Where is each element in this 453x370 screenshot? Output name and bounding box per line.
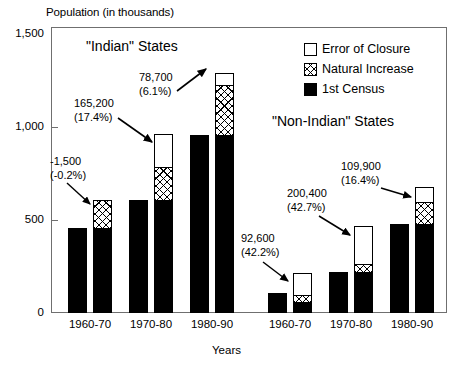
y-tick-mark-1000 <box>51 127 58 128</box>
segment-error-of-closure <box>415 187 434 203</box>
annotation-percent: (17.4%) <box>74 111 114 125</box>
annotation-value: 109,900 <box>341 160 381 174</box>
segment-error-of-closure <box>215 73 234 86</box>
bar-indian-1960-70-components <box>93 200 112 313</box>
hatched-square-icon <box>304 63 317 76</box>
y-tick-1500: 1,500 <box>0 27 44 39</box>
bar-indian-1970-80-census <box>129 200 148 313</box>
annotation-value: 165,200 <box>74 97 114 111</box>
legend-item-natural-increase: Natural Increase <box>304 59 414 79</box>
segment-1st-census <box>415 224 434 313</box>
segment-natural-increase <box>154 167 173 201</box>
annotation-percent: (42.2%) <box>241 246 280 260</box>
segment-natural-increase <box>293 295 312 303</box>
bar-nonindian-1970-80-census <box>329 272 348 313</box>
annotation-value: -1,500 <box>50 155 86 169</box>
bar-nonindian-1980-90-census <box>390 224 409 313</box>
annotation-neg1500: -1,500 (-0.2%) <box>50 155 86 182</box>
segment-1st-census <box>129 200 148 313</box>
legend-item-error-of-closure: Error of Closure <box>304 39 414 59</box>
segment-error-of-closure <box>154 134 173 168</box>
y-tick-mark-500 <box>51 220 58 221</box>
bar-nonindian-1970-80-components <box>354 226 373 313</box>
segment-1st-census <box>190 135 209 313</box>
x-tick-nonindian-1980-90: 1980-90 <box>372 318 452 330</box>
annotation-78700: 78,700 (6.1%) <box>139 71 173 98</box>
segment-1st-census <box>154 200 173 313</box>
x-tick-indian-1980-90: 1980-90 <box>172 318 252 330</box>
legend-label: Error of Closure <box>322 42 410 56</box>
legend-label: Natural Increase <box>322 62 414 76</box>
y-axis-title: Population (in thousands) <box>46 6 174 18</box>
annotation-109900: 109,900 (16.4%) <box>341 160 381 187</box>
bar-indian-1980-90-census <box>190 135 209 313</box>
segment-1st-census <box>93 228 112 313</box>
bar-indian-1970-80-components <box>154 134 173 313</box>
y-tick-1000: 1,000 <box>0 120 44 132</box>
y-tick-500: 500 <box>0 213 44 225</box>
annotation-value: 92,600 <box>241 232 280 246</box>
segment-1st-census <box>390 224 409 313</box>
segment-natural-increase <box>354 264 373 273</box>
population-bar-chart: Population (in thousands) 1,500 1,000 50… <box>0 0 453 370</box>
segment-1st-census <box>293 302 312 313</box>
legend-label: 1st Census <box>322 82 385 96</box>
annotation-percent: (-0.2%) <box>50 169 86 183</box>
segment-1st-census <box>215 135 234 313</box>
bar-indian-1980-90-components <box>215 73 234 313</box>
annotation-percent: (6.1%) <box>139 85 173 99</box>
group-heading-indian: "Indian" States <box>86 38 178 54</box>
segment-natural-increase <box>415 202 434 225</box>
bar-indian-1960-70-census <box>68 228 87 313</box>
white-square-icon <box>304 43 317 56</box>
segment-1st-census <box>68 228 87 313</box>
black-square-icon <box>304 83 317 96</box>
annotation-percent: (16.4%) <box>341 174 381 188</box>
annotation-200400: 200,400 (42.7%) <box>287 187 327 214</box>
bar-nonindian-1980-90-components <box>415 187 434 313</box>
annotation-value: 200,400 <box>287 187 327 201</box>
bar-nonindian-1960-70-components <box>293 273 312 313</box>
annotation-percent: (42.7%) <box>287 201 327 215</box>
segment-1st-census <box>354 272 373 313</box>
annotation-value: 78,700 <box>139 71 173 85</box>
legend: Error of Closure Natural Increase 1st Ce… <box>304 39 414 99</box>
segment-error-of-closure <box>354 226 373 265</box>
x-axis-title: Years <box>0 344 453 356</box>
y-tick-0: 0 <box>0 306 44 318</box>
segment-1st-census <box>329 272 348 313</box>
annotation-165200: 165,200 (17.4%) <box>74 97 114 124</box>
legend-item-1st-census: 1st Census <box>304 79 414 99</box>
segment-natural-increase <box>93 200 112 229</box>
group-heading-nonindian: "Non-Indian" States <box>272 113 394 129</box>
annotation-92600: 92,600 (42.2%) <box>241 232 280 259</box>
segment-1st-census <box>268 293 287 313</box>
bar-nonindian-1960-70-census <box>268 293 287 313</box>
segment-natural-increase <box>215 85 234 136</box>
segment-error-of-closure <box>293 273 312 296</box>
